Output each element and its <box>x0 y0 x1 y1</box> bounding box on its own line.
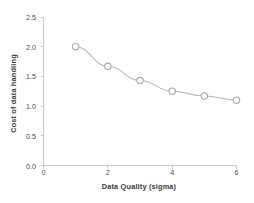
data-point-marker <box>137 77 143 83</box>
x-tick-label: 0 <box>34 168 54 177</box>
x-axis-title: Data Quality (sigma) <box>0 182 254 191</box>
series-markers <box>72 44 239 104</box>
line-chart: 0.00.51.01.52.02.5 0246 Data Quality (si… <box>0 0 254 203</box>
data-point-marker <box>105 63 111 69</box>
data-point-marker <box>201 93 207 99</box>
axis-group <box>43 17 237 166</box>
series-line-cost-of-data-handling <box>76 47 237 100</box>
data-point-marker <box>72 44 78 50</box>
y-axis-title: Cost of data handling <box>7 0 21 176</box>
data-point-marker <box>169 88 175 94</box>
data-point-marker <box>233 97 239 103</box>
x-tick-label: 2 <box>98 168 118 177</box>
x-tick-label: 6 <box>227 168 247 177</box>
x-tick-label: 4 <box>162 168 182 177</box>
